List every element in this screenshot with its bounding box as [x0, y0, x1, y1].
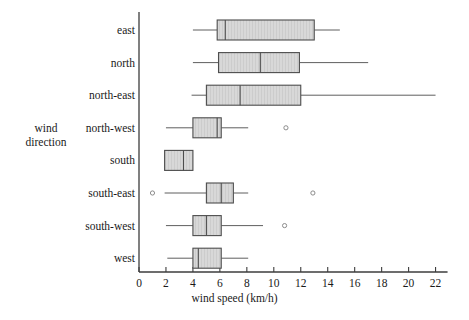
y-axis-title-line-2: direction — [8, 135, 84, 149]
boxplot-figure: eastnorthnorth-eastnorth-westsouthsouth-… — [0, 0, 469, 320]
box-series — [150, 20, 435, 268]
axis-lines — [139, 12, 448, 272]
box-rect — [206, 85, 300, 105]
x-axis-tick-label: 0 — [136, 277, 142, 289]
box-west — [167, 248, 248, 268]
outlier-point — [150, 191, 154, 195]
box-north-west — [166, 118, 288, 138]
x-axis-tick-label: 18 — [376, 277, 388, 289]
category-label-east: east — [0, 24, 135, 36]
x-axis-tick-label: 6 — [217, 277, 223, 289]
box-rect — [217, 20, 314, 40]
category-label-south-west: south-west — [0, 220, 135, 232]
x-axis-tick-label: 20 — [403, 277, 415, 289]
x-axis-tick-label: 2 — [163, 277, 169, 289]
box-north — [193, 53, 368, 73]
box-north-east — [192, 85, 436, 105]
x-axis-tick-label: 10 — [268, 277, 280, 289]
axis-ticks — [139, 267, 436, 272]
box-rect — [193, 248, 221, 268]
box-rect — [193, 216, 221, 236]
category-label-south-east: south-east — [0, 187, 135, 199]
box-south — [165, 150, 193, 170]
x-axis-tick-label: 16 — [349, 277, 361, 289]
box-rect — [219, 53, 300, 73]
outlier-point — [282, 224, 286, 228]
outlier-point — [284, 126, 288, 130]
box-east — [193, 20, 340, 40]
x-axis-tick-label: 8 — [244, 277, 250, 289]
box-rect — [165, 150, 193, 170]
x-axis-title: wind speed (km/h) — [0, 292, 469, 304]
x-axis-tick-label: 14 — [322, 277, 334, 289]
x-axis-tick-label: 22 — [430, 277, 442, 289]
category-label-north: north — [0, 57, 135, 69]
box-rect — [206, 183, 233, 203]
box-south-west — [166, 216, 287, 236]
y-axis-title-line-1: wind — [8, 121, 84, 135]
x-axis-tick-label: 12 — [295, 277, 307, 289]
outlier-point — [311, 191, 315, 195]
y-axis-title: wind direction — [8, 121, 84, 149]
category-label-west: west — [0, 252, 135, 264]
category-label-south: south — [0, 154, 135, 166]
box-south-east — [150, 183, 315, 203]
x-axis-tick-label: 4 — [190, 277, 196, 289]
category-label-north-east: north-east — [0, 89, 135, 101]
